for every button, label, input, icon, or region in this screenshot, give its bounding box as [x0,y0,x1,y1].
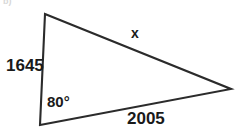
side-length-label-unknown-x: x [131,26,139,40]
side-length-label-bottom: 2005 [127,110,165,127]
angle-measure-label: 80° [47,94,70,109]
side-length-label-left: 1645 [6,57,44,74]
triangle-figure: b) 1645 80° 2005 x [0,0,235,137]
